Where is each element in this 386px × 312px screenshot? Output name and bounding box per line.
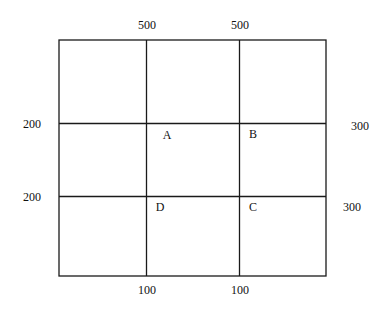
node-label-c: C [249,201,257,213]
bottom-flow-label-right: 100 [231,284,249,296]
grid-diagram: 500 500 100 100 200 200 300 300 A B C D [0,0,386,312]
left-flow-label-upper: 200 [23,118,41,130]
left-flow-label-lower: 200 [23,191,41,203]
outer-boundary [59,40,326,276]
node-label-a: A [163,129,172,141]
bottom-flow-label-left: 100 [138,284,156,296]
top-flow-label-right: 500 [231,19,249,31]
top-flow-label-left: 500 [138,19,156,31]
node-label-b: B [249,128,257,140]
grid-lines [0,0,386,312]
right-flow-label-lower: 300 [343,201,361,213]
right-flow-label-upper: 300 [351,120,369,132]
node-label-d: D [156,201,165,213]
